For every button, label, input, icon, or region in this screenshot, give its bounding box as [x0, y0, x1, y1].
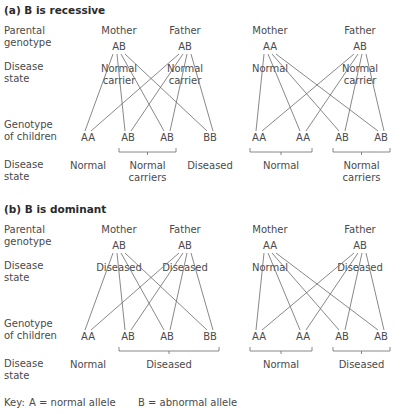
father-label: Father [344, 25, 376, 36]
bracket [119, 347, 219, 354]
row-label-children: Genotype [4, 119, 53, 130]
father-genotype: AB [353, 240, 367, 251]
child-genotype: AB [121, 132, 135, 143]
key-allele-b: B = abnormal allele [138, 397, 237, 408]
cross-1: MotherFatherABABDiseasedDiseasedAAABABBB… [70, 224, 219, 370]
child-disease-state: Normal [263, 160, 299, 171]
mother-genotype: AB [112, 41, 126, 52]
mother-genotype: AA [263, 41, 277, 52]
key-prefix: Key: [4, 397, 25, 408]
father-genotype: AB [178, 41, 192, 52]
mother-label: Mother [252, 224, 288, 235]
row-label-disease-parent: state [4, 73, 29, 84]
father-genotype: AB [178, 240, 192, 251]
father-label: Father [344, 224, 376, 235]
child-disease-state: Normal [343, 160, 379, 171]
panel-dominant: (b) B is dominantParentalgenotypeDisease… [4, 203, 390, 381]
panel-title: (a) B is recessive [4, 4, 105, 16]
father-label: Father [169, 224, 201, 235]
child-disease-state: Diseased [187, 160, 233, 171]
row-label-disease-parent: state [4, 272, 29, 283]
mother-label: Mother [101, 224, 137, 235]
bracket [119, 148, 176, 155]
child-genotype: AB [335, 331, 349, 342]
row-label-children: of children [4, 330, 57, 341]
child-genotype: AA [252, 331, 266, 342]
row-label-disease-children: Disease [4, 159, 43, 170]
inheritance-line [306, 253, 358, 330]
child-genotype: BB [203, 331, 217, 342]
child-disease-state: Diseased [146, 359, 192, 370]
child-genotype: BB [203, 132, 217, 143]
mother-disease-state: Normal [252, 63, 288, 74]
child-genotype: AA [296, 132, 310, 143]
child-genotype: AB [374, 132, 388, 143]
inheritance-diagram: (a) B is recessiveParentalgenotypeDiseas… [0, 0, 396, 415]
child-disease-state: Diseased [339, 359, 385, 370]
row-label-parental: Parental [4, 224, 45, 235]
child-genotype: AB [160, 132, 174, 143]
child-genotype: AA [296, 331, 310, 342]
row-label-disease-parent: Disease [4, 61, 43, 72]
child-genotype: AA [81, 132, 95, 143]
mother-genotype: AB [112, 240, 126, 251]
mother-label: Mother [101, 25, 137, 36]
father-genotype: AB [353, 41, 367, 52]
child-disease-state: Normal [70, 160, 106, 171]
child-genotype: AA [81, 331, 95, 342]
child-disease-state: carriers [343, 172, 381, 183]
inheritance-line [121, 253, 164, 330]
inheritance-line [85, 54, 113, 131]
row-label-parental: genotype [4, 37, 51, 48]
inheritance-line [272, 253, 339, 330]
mother-genotype: AA [263, 240, 277, 251]
row-label-disease-parent: Disease [4, 260, 43, 271]
cross-2: MotherFatherAAABNormalNormalcarrierAAAAA… [250, 25, 390, 183]
panel-title: (b) B is dominant [4, 203, 106, 215]
child-disease-state: Normal [129, 160, 165, 171]
child-genotype: AB [160, 331, 174, 342]
mother-disease-state: Normal [252, 262, 288, 273]
child-disease-state: Normal [70, 359, 106, 370]
child-genotype: AB [374, 331, 388, 342]
allele-key: Key: A = normal allele B = abnormal alle… [4, 397, 237, 408]
cross-1: MotherFatherABABNormalcarrierNormalcarri… [70, 25, 233, 183]
mother-label: Mother [252, 25, 288, 36]
key-allele-a: A = normal allele [29, 397, 116, 408]
row-label-children: Genotype [4, 318, 53, 329]
father-label: Father [169, 25, 201, 36]
bracket [333, 148, 390, 155]
child-genotype: AB [335, 132, 349, 143]
child-genotype: AA [252, 132, 266, 143]
inheritance-line [131, 54, 183, 131]
child-disease-state: Normal [263, 359, 299, 370]
inheritance-line [121, 54, 164, 131]
bracket [333, 347, 390, 354]
cross-2: MotherFatherAAABNormalDiseasedAAAAABABNo… [250, 224, 390, 370]
row-label-parental: Parental [4, 25, 45, 36]
row-label-disease-children: state [4, 171, 29, 182]
panel-recessive: (a) B is recessiveParentalgenotypeDiseas… [4, 4, 390, 183]
row-label-disease-children: Disease [4, 358, 43, 369]
inheritance-line [272, 54, 339, 131]
row-label-disease-children: state [4, 370, 29, 381]
bracket [250, 347, 312, 354]
child-disease-state: carriers [129, 172, 167, 183]
row-label-children: of children [4, 131, 57, 142]
bracket [250, 148, 312, 155]
row-label-parental: genotype [4, 236, 51, 247]
child-genotype: AB [121, 331, 135, 342]
inheritance-line [306, 54, 358, 131]
